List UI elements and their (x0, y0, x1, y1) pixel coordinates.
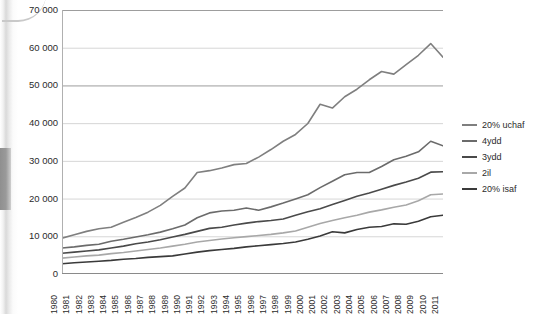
x-axis-tick-label: 1985 (111, 295, 120, 314)
x-axis-tick-label: 1998 (271, 295, 280, 314)
x-axis-tick-label: 2006 (370, 295, 379, 314)
y-axis-tick-label: 70 000 (4, 5, 58, 15)
x-axis-tick-label: 1996 (247, 295, 256, 314)
legend-item[interactable]: 4ydd (462, 133, 537, 149)
y-axis-tick-label: 10 000 (4, 231, 58, 241)
legend-item-label: 2il (482, 168, 491, 178)
line-chart: 010 00020 00030 00040 00050 00060 00070 … (0, 0, 537, 314)
x-axis-tick-label: 1984 (99, 295, 108, 314)
y-axis-tick-label: 50 000 (4, 80, 58, 90)
x-axis-tick-label: 1987 (136, 295, 145, 314)
legend-color-swatch (462, 124, 477, 126)
plot-svg (62, 10, 443, 274)
x-axis-tick-label: 1986 (124, 295, 133, 314)
x-axis-tick-label: 1982 (75, 295, 84, 314)
x-axis-tick-label: 2004 (345, 295, 354, 314)
x-axis-tick-label: 1980 (50, 295, 59, 314)
legend-item[interactable]: 20% isaf (462, 181, 537, 197)
x-axis-tick-label: 1993 (210, 295, 219, 314)
x-axis-tick-label: 1990 (173, 295, 182, 314)
x-axis-tick-label: 2005 (357, 295, 366, 314)
legend-item-label: 20% isaf (482, 184, 517, 194)
y-axis-tick-label: 0 (4, 269, 58, 279)
y-axis-tick-label: 30 000 (4, 156, 58, 166)
x-axis-tick-label: 2000 (296, 295, 305, 314)
legend-item[interactable]: 20% uchaf (462, 117, 537, 133)
gridlines (62, 11, 443, 237)
y-axis-tick-label: 40 000 (4, 118, 58, 128)
legend-item-label: 20% uchaf (482, 120, 525, 130)
x-axis-tick-label: 1989 (161, 295, 170, 314)
legend-item[interactable]: 3ydd (462, 149, 537, 165)
x-axis-tick-label: 1981 (62, 295, 71, 314)
x-axis-tick-label: 2002 (320, 295, 329, 314)
x-axis-tick-label: 2008 (394, 295, 403, 314)
x-axis-tick-label: 1988 (148, 295, 157, 314)
x-axis-tick-label: 1992 (197, 295, 206, 314)
x-axis: 1980198119821983198419851986198719881989… (62, 277, 443, 314)
series-lines (62, 44, 443, 264)
x-axis-tick-label: 1995 (234, 295, 243, 314)
legend-item-label: 3ydd (482, 152, 502, 162)
x-axis-tick-label: 2001 (308, 295, 317, 314)
y-axis-tick-label: 20 000 (4, 194, 58, 204)
y-axis: 010 00020 00030 00040 00050 00060 00070 … (0, 0, 58, 314)
x-axis-tick-label: 2007 (382, 295, 391, 314)
legend-color-swatch (462, 156, 477, 158)
chart-legend: 20% uchaf4ydd3ydd2il20% isaf (462, 117, 537, 197)
series-line (62, 141, 443, 248)
legend-color-swatch (462, 188, 477, 190)
x-axis-tick-label: 1983 (87, 295, 96, 314)
x-axis-tick-label: 2003 (333, 295, 342, 314)
legend-item[interactable]: 2il (462, 165, 537, 181)
y-axis-tick-label: 60 000 (4, 43, 58, 53)
x-axis-tick-label: 2011 (431, 296, 440, 314)
legend-color-swatch (462, 140, 477, 142)
x-axis-tick-label: 1994 (222, 295, 231, 314)
x-axis-tick-label: 2009 (406, 295, 415, 314)
x-axis-tick-label: 1991 (185, 295, 194, 314)
series-line (62, 172, 443, 253)
plot-area (62, 10, 443, 274)
x-axis-tick-label: 1999 (284, 295, 293, 314)
legend-color-swatch (462, 172, 477, 174)
x-axis-tick-label: 1997 (259, 295, 268, 314)
x-axis-tick-label: 2010 (419, 295, 428, 314)
legend-item-label: 4ydd (482, 136, 502, 146)
